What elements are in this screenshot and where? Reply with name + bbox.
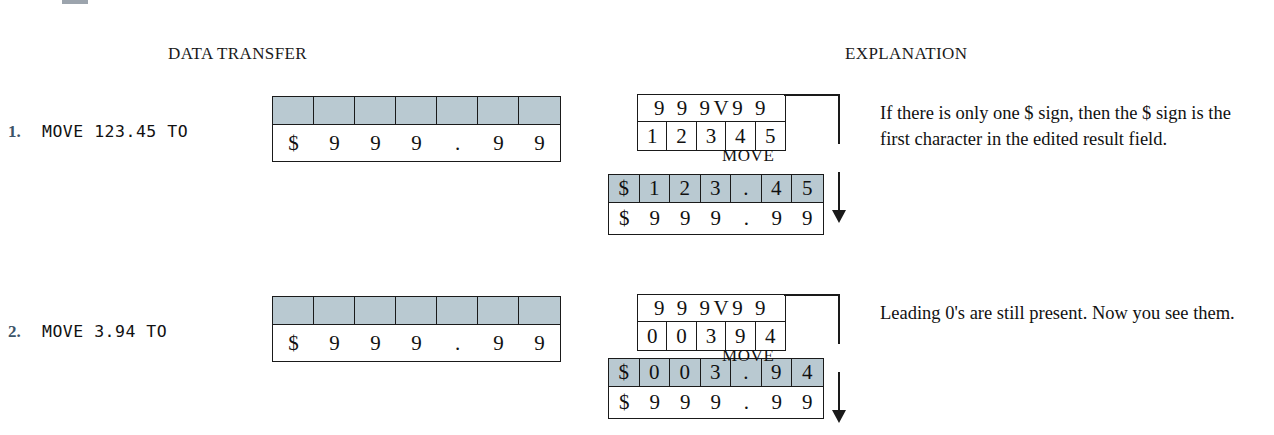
cell: 9 xyxy=(478,125,519,161)
cell xyxy=(273,97,314,124)
cell xyxy=(355,97,396,124)
receiving-field-blank-row-2 xyxy=(272,296,561,324)
cell xyxy=(314,97,355,124)
cell: 0 xyxy=(670,359,701,386)
receiving-field-picture-row-1: $ 9 9 9 . 9 9 xyxy=(272,124,561,162)
cell: $ xyxy=(609,359,640,386)
cell xyxy=(478,97,519,124)
cell: 9 xyxy=(519,325,560,361)
cell: 9 xyxy=(314,125,355,161)
explanation-text-1: If there is only one $ sign, then the $ … xyxy=(880,100,1252,153)
cell: 0 xyxy=(638,322,667,350)
cell: 9 xyxy=(762,387,793,418)
receiving-field-box-1: $ 9 9 9 . 9 9 xyxy=(272,96,561,162)
cell: 4 xyxy=(762,175,793,202)
cell: 9 xyxy=(670,387,701,418)
source-field-box-1: 9 9 9V9 9 1 2 3 4 5 xyxy=(637,94,786,151)
column-header-data-transfer: DATA TRANSFER xyxy=(168,44,307,64)
page-top-crop-mark xyxy=(62,0,88,4)
source-field-picture-string-1: 9 9 9V9 9 xyxy=(638,95,785,121)
cell xyxy=(273,297,314,324)
statement-2: 2. MOVE 3.94 TO xyxy=(8,322,167,342)
cell: 9 xyxy=(640,387,671,418)
cell: 9 xyxy=(701,203,732,234)
receiving-field-blank-row-1 xyxy=(272,96,561,124)
cell: 9 xyxy=(519,125,560,161)
receiving-field-picture-row-2: $ 9 9 9 . 9 9 xyxy=(272,324,561,362)
cell: 2 xyxy=(670,175,701,202)
result-field-value-row-1: $ 1 2 3 . 4 5 xyxy=(608,174,824,202)
down-arrow-icon xyxy=(832,410,846,423)
source-field-box-2: 9 9 9V9 9 0 0 3 9 4 xyxy=(637,294,786,351)
connector-vertical-line-lower xyxy=(838,372,840,414)
move-label-1: MOVE xyxy=(722,146,774,166)
cell: $ xyxy=(273,325,314,361)
cell: 9 xyxy=(396,325,437,361)
statement-1: 1. MOVE 123.45 TO xyxy=(8,122,188,142)
cell: . xyxy=(731,175,762,202)
source-field-picture-string-2: 9 9 9V9 9 xyxy=(638,295,785,321)
cell: 2 xyxy=(667,122,696,150)
cell: . xyxy=(731,387,762,418)
cell: 0 xyxy=(640,359,671,386)
cell: 3 xyxy=(701,175,732,202)
move-label-2: MOVE xyxy=(722,346,774,366)
down-arrow-icon xyxy=(832,210,846,223)
connector-horizontal-line xyxy=(784,294,840,296)
cell xyxy=(314,297,355,324)
cell: $ xyxy=(609,387,640,418)
cell: 9 xyxy=(640,203,671,234)
connector-horizontal-line xyxy=(784,94,840,96)
cell xyxy=(396,297,437,324)
connector-vertical-line-upper xyxy=(838,94,840,144)
cell xyxy=(355,297,396,324)
statement-code-1: MOVE 123.45 TO xyxy=(42,122,188,141)
receiving-field-box-2: $ 9 9 9 . 9 9 xyxy=(272,296,561,362)
cell xyxy=(396,97,437,124)
cell: 0 xyxy=(667,322,696,350)
cell: 1 xyxy=(638,122,667,150)
cell: 9 xyxy=(314,325,355,361)
cell: 9 xyxy=(478,325,519,361)
column-header-explanation: EXPLANATION xyxy=(845,44,967,64)
cell: 9 xyxy=(762,203,793,234)
source-field-picture-row-2: 9 9 9V9 9 xyxy=(637,294,786,321)
cell: $ xyxy=(609,175,640,202)
cell xyxy=(519,297,560,324)
explanation-text-2: Leading 0's are still present. Now you s… xyxy=(880,300,1252,326)
cell: 9 xyxy=(792,387,823,418)
cell: 5 xyxy=(792,175,823,202)
cell: 1 xyxy=(640,175,671,202)
cell: 9 xyxy=(396,125,437,161)
cell xyxy=(519,97,560,124)
source-field-picture-row-1: 9 9 9V9 9 xyxy=(637,94,786,121)
cell: . xyxy=(731,203,762,234)
cell: 9 xyxy=(701,387,732,418)
cell xyxy=(437,97,478,124)
connector-vertical-line-upper xyxy=(838,294,840,344)
cell: 9 xyxy=(670,203,701,234)
cell: $ xyxy=(273,125,314,161)
result-field-value-row-2: $ 0 0 3 . 9 4 xyxy=(608,358,824,386)
cell: 9 xyxy=(355,325,396,361)
cell xyxy=(437,297,478,324)
statement-number-1: 1. xyxy=(8,122,42,142)
cell: . xyxy=(437,125,478,161)
result-field-picture-row-2: $ 9 9 9 . 9 9 xyxy=(608,386,824,419)
connector-vertical-line-lower xyxy=(838,172,840,214)
result-field-box-1: $ 1 2 3 . 4 5 $ 9 9 9 . 9 9 xyxy=(608,174,824,235)
cell: . xyxy=(437,325,478,361)
result-field-box-2: $ 0 0 3 . 9 4 $ 9 9 9 . 9 9 xyxy=(608,358,824,419)
cell: 9 xyxy=(355,125,396,161)
statement-number-2: 2. xyxy=(8,322,42,342)
cell: 9 xyxy=(792,203,823,234)
result-field-picture-row-1: $ 9 9 9 . 9 9 xyxy=(608,202,824,235)
statement-code-2: MOVE 3.94 TO xyxy=(42,322,167,341)
cell: 4 xyxy=(792,359,823,386)
cell: $ xyxy=(609,203,640,234)
cell xyxy=(478,297,519,324)
